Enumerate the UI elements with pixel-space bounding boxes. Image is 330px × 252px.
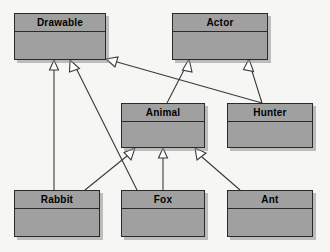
generalization-animal-actor <box>167 59 192 103</box>
generalization-hunter-actor <box>244 59 263 103</box>
uml-class-name-fox: Fox <box>122 191 204 209</box>
uml-class-name-animal: Animal <box>122 104 204 122</box>
hollow-triangle-arrowhead-icon <box>195 148 206 160</box>
uml-class-hunter[interactable]: Hunter <box>227 103 313 148</box>
uml-class-actor[interactable]: Actor <box>172 13 268 60</box>
hollow-triangle-arrowhead-icon <box>106 57 118 67</box>
hollow-triangle-arrowhead-icon <box>159 148 168 158</box>
uml-attribute-compartment-hunter <box>228 122 312 147</box>
uml-attribute-compartment-rabbit <box>15 209 99 236</box>
generalization-hunter-drawable <box>106 57 262 103</box>
hollow-triangle-arrowhead-icon <box>70 60 80 72</box>
uml-class-ant[interactable]: Ant <box>227 190 313 237</box>
uml-class-name-drawable: Drawable <box>15 14 105 32</box>
hollow-triangle-arrowhead-icon <box>244 59 254 72</box>
uml-class-name-hunter: Hunter <box>228 104 312 122</box>
uml-attribute-compartment-actor <box>173 32 267 59</box>
hollow-triangle-arrowhead-icon <box>124 148 135 160</box>
generalization-fox-animal <box>159 148 168 190</box>
uml-attribute-compartment-drawable <box>15 32 105 59</box>
uml-attribute-compartment-animal <box>122 122 204 147</box>
uml-class-rabbit[interactable]: Rabbit <box>14 190 100 237</box>
hollow-triangle-arrowhead-icon <box>183 59 193 72</box>
uml-class-drawable[interactable]: Drawable <box>14 13 106 60</box>
hollow-triangle-arrowhead-icon <box>50 60 59 70</box>
uml-class-name-rabbit: Rabbit <box>15 191 99 209</box>
uml-class-fox[interactable]: Fox <box>121 190 205 237</box>
generalization-ant-animal <box>195 148 240 190</box>
generalization-rabbit-animal <box>85 148 135 190</box>
uml-class-diagram: Drawable Actor Animal Hunter Rabbit Fox … <box>0 0 330 252</box>
uml-attribute-compartment-ant <box>228 209 312 236</box>
uml-class-name-ant: Ant <box>228 191 312 209</box>
uml-class-animal[interactable]: Animal <box>121 103 205 148</box>
uml-attribute-compartment-fox <box>122 209 204 236</box>
uml-class-name-actor: Actor <box>173 14 267 32</box>
generalization-rabbit-drawable <box>50 60 59 190</box>
